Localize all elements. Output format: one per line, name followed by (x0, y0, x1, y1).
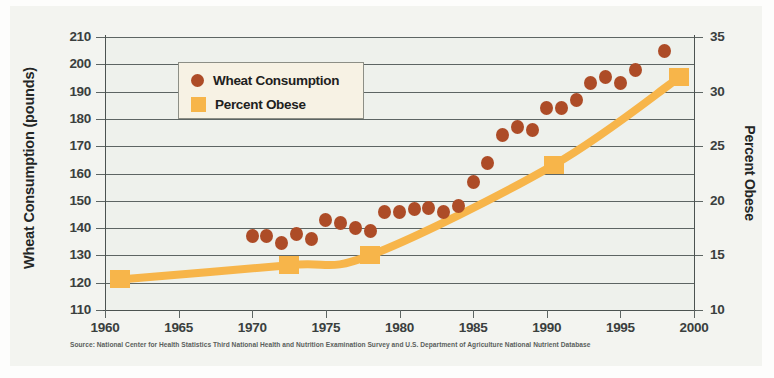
wheat-data-point (599, 70, 612, 84)
percent-obese-data-point (279, 256, 299, 274)
bottom-tick-label: 1965 (154, 320, 204, 335)
source-note: Source: National Center for Health Stati… (70, 341, 720, 348)
left-tick-label: 170 (47, 138, 91, 153)
left-tick-label: 120 (47, 275, 91, 290)
left-tick-mark (96, 255, 105, 256)
bottom-tick-label: 1990 (522, 320, 572, 335)
wheat-data-point (481, 156, 494, 170)
legend-label-percent-obese: Percent Obese (215, 97, 306, 112)
left-tick-label: 200 (47, 56, 91, 71)
left-tick-mark (96, 228, 105, 229)
wheat-data-point (526, 123, 539, 137)
bottom-tick-label: 1970 (227, 320, 277, 335)
wheat-data-point (305, 232, 318, 246)
bottom-tick-mark (694, 310, 695, 318)
legend-item-percent-obese: Percent Obese (191, 93, 306, 115)
wheat-data-point (246, 229, 259, 243)
bottom-tick-label: 1960 (80, 320, 130, 335)
left-tick-mark (96, 64, 105, 65)
wheat-data-point (364, 224, 377, 238)
bottom-tick-mark (326, 310, 327, 318)
chart-figure: 110120130140150160170180190200210 101520… (0, 0, 774, 378)
left-tick-mark (96, 37, 105, 38)
left-tick-mark (96, 201, 105, 202)
left-tick-label: 130 (47, 247, 91, 262)
wheat-data-point (408, 202, 421, 216)
wheat-data-point (437, 205, 450, 219)
percent-obese-data-point (669, 68, 689, 86)
wheat-data-point (555, 101, 568, 115)
right-tick-mark (694, 201, 703, 202)
left-tick-label: 150 (47, 193, 91, 208)
legend-label-wheat-consumption: Wheat Consumption (213, 73, 339, 88)
wheat-data-point (570, 93, 583, 107)
right-axis-spine (694, 35, 695, 312)
wheat-data-point (290, 227, 303, 241)
wheat-data-point (393, 205, 406, 219)
legend-circle-icon (191, 74, 204, 87)
wheat-data-point (658, 44, 671, 58)
left-tick-label: 110 (47, 302, 91, 317)
right-axis-title: Percent Obese (742, 73, 758, 273)
wheat-data-point (629, 63, 642, 77)
bottom-tick-label: 1985 (448, 320, 498, 335)
left-tick-mark (96, 174, 105, 175)
percent-obese-data-point (110, 270, 130, 288)
right-tick-label: 35 (710, 29, 750, 44)
right-tick-mark (694, 255, 703, 256)
left-tick-mark (96, 119, 105, 120)
right-tick-label: 10 (710, 302, 750, 317)
wheat-data-point (511, 120, 524, 134)
bottom-tick-mark (547, 310, 548, 318)
bottom-tick-mark (473, 310, 474, 318)
left-tick-mark (96, 146, 105, 147)
right-tick-mark (694, 92, 703, 93)
left-tick-label: 160 (47, 166, 91, 181)
bottom-tick-label: 1980 (375, 320, 425, 335)
bottom-tick-mark (400, 310, 401, 318)
bottom-tick-label: 1975 (301, 320, 351, 335)
bottom-tick-mark (179, 310, 180, 318)
percent-obese-data-point (544, 156, 564, 174)
left-tick-mark (96, 92, 105, 93)
left-tick-label: 140 (47, 220, 91, 235)
bottom-tick-label: 1995 (595, 320, 645, 335)
right-tick-mark (694, 146, 703, 147)
wheat-data-point (349, 221, 362, 235)
left-tick-label: 190 (47, 84, 91, 99)
bottom-tick-mark (252, 310, 253, 318)
legend-square-icon (191, 97, 206, 112)
bottom-tick-mark (620, 310, 621, 318)
wheat-data-point (378, 205, 391, 219)
chart-legend: Wheat Consumption Percent Obese (178, 62, 364, 119)
wheat-data-point (334, 216, 347, 230)
left-tick-label: 210 (47, 29, 91, 44)
left-tick-label: 180 (47, 111, 91, 126)
left-axis-spine (105, 35, 106, 312)
percent-obese-data-point (360, 246, 380, 264)
bottom-tick-mark (105, 310, 106, 318)
legend-item-wheat-consumption: Wheat Consumption (191, 69, 339, 91)
wheat-data-point (467, 175, 480, 189)
left-tick-mark (96, 283, 105, 284)
right-tick-mark (694, 37, 703, 38)
bottom-tick-label: 2000 (669, 320, 719, 335)
left-axis-title: Wheat Consumption (pounds) (21, 53, 37, 283)
